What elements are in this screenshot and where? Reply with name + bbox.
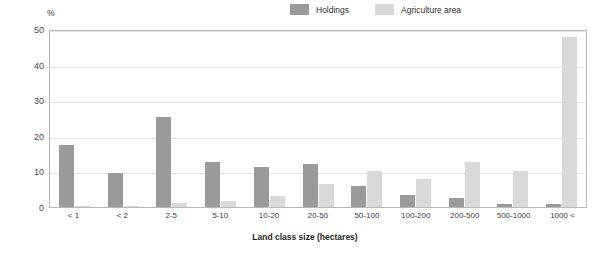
bar[interactable] [124,206,139,207]
x-axis-tick-label: 1000 < [538,211,587,220]
y-axis-unit-label: % [47,8,55,18]
legend-item[interactable]: Agriculture area [375,4,461,15]
y-axis-tick-label: 30 [14,96,44,106]
bar[interactable] [59,145,74,207]
bar[interactable] [172,203,187,207]
bar[interactable] [400,195,415,207]
bar[interactable] [513,171,528,207]
bar[interactable] [351,186,366,207]
bar[interactable] [562,37,577,207]
bar[interactable] [75,206,90,207]
y-axis-tick-label: 50 [14,25,44,35]
bar[interactable] [319,184,334,207]
bar-group [440,31,489,207]
bar-group [245,31,294,207]
x-axis-tick-label: 2-5 [147,211,196,220]
bar-group [489,31,538,207]
legend-label: Agriculture area [401,5,461,15]
x-axis-tick-label: 20-50 [294,211,343,220]
bar-group [196,31,245,207]
bar[interactable] [449,198,464,207]
bar-group [537,31,586,207]
legend-swatch-icon [375,4,394,15]
bar[interactable] [303,164,318,207]
bar-group [342,31,391,207]
x-axis-tick-label: 500-1000 [489,211,538,220]
legend-label: Holdings [316,5,349,15]
bar-chart-figure: % 01020304050 HoldingsAgriculture area <… [0,0,610,265]
bar-group [99,31,148,207]
bar-groups [50,31,586,207]
x-axis-tick-label: 100-200 [391,211,440,220]
bar-group [147,31,196,207]
plot-area [49,30,587,208]
bar[interactable] [416,179,431,207]
x-axis-tick-label: 50-100 [342,211,391,220]
y-axis-tick-label: 20 [14,132,44,142]
x-axis-tick-label: < 2 [98,211,147,220]
bar[interactable] [254,167,269,207]
bar[interactable] [546,204,561,207]
legend-swatch-icon [290,4,309,15]
bar[interactable] [465,162,480,207]
bar[interactable] [221,201,236,207]
bar-group [50,31,99,207]
y-axis-tick-label: 40 [14,61,44,71]
bar[interactable] [108,173,123,207]
x-axis-tick-label: 10-20 [245,211,294,220]
x-axis-tick-label: < 1 [49,211,98,220]
x-axis-tick-labels: < 1< 22-55-1010-2020-5050-100100-200200-… [49,211,587,220]
bar[interactable] [205,162,220,207]
legend-item[interactable]: Holdings [290,4,349,15]
y-axis-tick-label: 0 [14,203,44,213]
bar[interactable] [156,117,171,207]
bar-group [391,31,440,207]
bar-group [294,31,343,207]
chart-legend: HoldingsAgriculture area [290,4,461,15]
x-axis-title: Land class size (hectares) [0,232,610,242]
y-axis-tick-label: 10 [14,167,44,177]
x-axis-tick-label: 200-500 [440,211,489,220]
bar[interactable] [497,204,512,207]
x-axis-tick-label: 5-10 [196,211,245,220]
bar[interactable] [270,196,285,207]
bar[interactable] [367,171,382,207]
